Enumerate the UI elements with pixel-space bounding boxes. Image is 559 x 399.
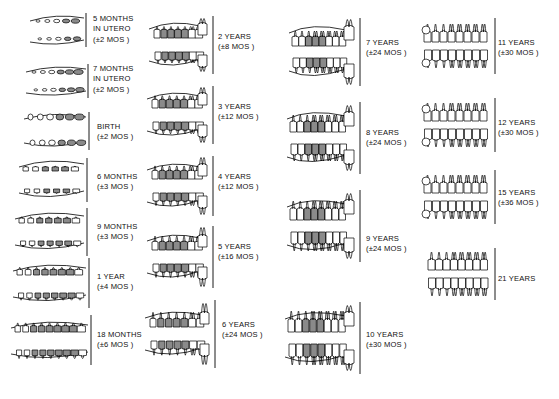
column-4: 11 YEARS(±30 MOS )12 YEARS(±30 MOS )15 Y… [0, 0, 559, 399]
stage-21-years-label: 21 YEARS [498, 274, 535, 284]
dental-development-chart: 5 MONTHSIN UTERO(±2 MOS )7 MONTHSIN UTER… [0, 0, 559, 399]
stage-21-years-illustration [424, 246, 498, 302]
stage-21-years-label-line-1: 21 YEARS [498, 274, 535, 284]
stage-21-years: 21 YEARS [0, 0, 559, 399]
